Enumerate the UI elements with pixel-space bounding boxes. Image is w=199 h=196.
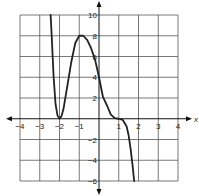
x-tick-label: −1 xyxy=(75,122,85,131)
chart: x−4−3−2−11234108642−2−4−6 xyxy=(0,0,199,196)
y-axis-down-arrow-icon xyxy=(97,189,102,195)
y-tick-label: 4 xyxy=(93,73,98,82)
x-tick-label: 1 xyxy=(117,122,122,131)
y-tick-label: −6 xyxy=(88,177,98,186)
x-axis-label: x xyxy=(193,115,199,124)
x-tick-label: 2 xyxy=(136,122,141,131)
y-tick-label: 10 xyxy=(88,11,97,20)
x-tick-label: 4 xyxy=(176,122,181,131)
x-tick-label: 3 xyxy=(156,122,161,131)
x-axis-left-arrow-icon xyxy=(6,116,12,121)
y-tick-label: 2 xyxy=(93,94,98,103)
x-tick-label: −4 xyxy=(15,122,25,131)
x-axis-right-arrow-icon xyxy=(186,116,192,121)
y-axis-up-arrow-icon xyxy=(97,1,102,7)
x-tick-label: −3 xyxy=(35,122,45,131)
x-tick-label: −2 xyxy=(55,122,65,131)
y-tick-label: −2 xyxy=(88,136,98,145)
y-tick-label: −4 xyxy=(88,156,98,165)
y-tick-label: 8 xyxy=(93,32,98,41)
tick-labels: x−4−3−2−11234108642−2−4−6 xyxy=(15,11,199,186)
